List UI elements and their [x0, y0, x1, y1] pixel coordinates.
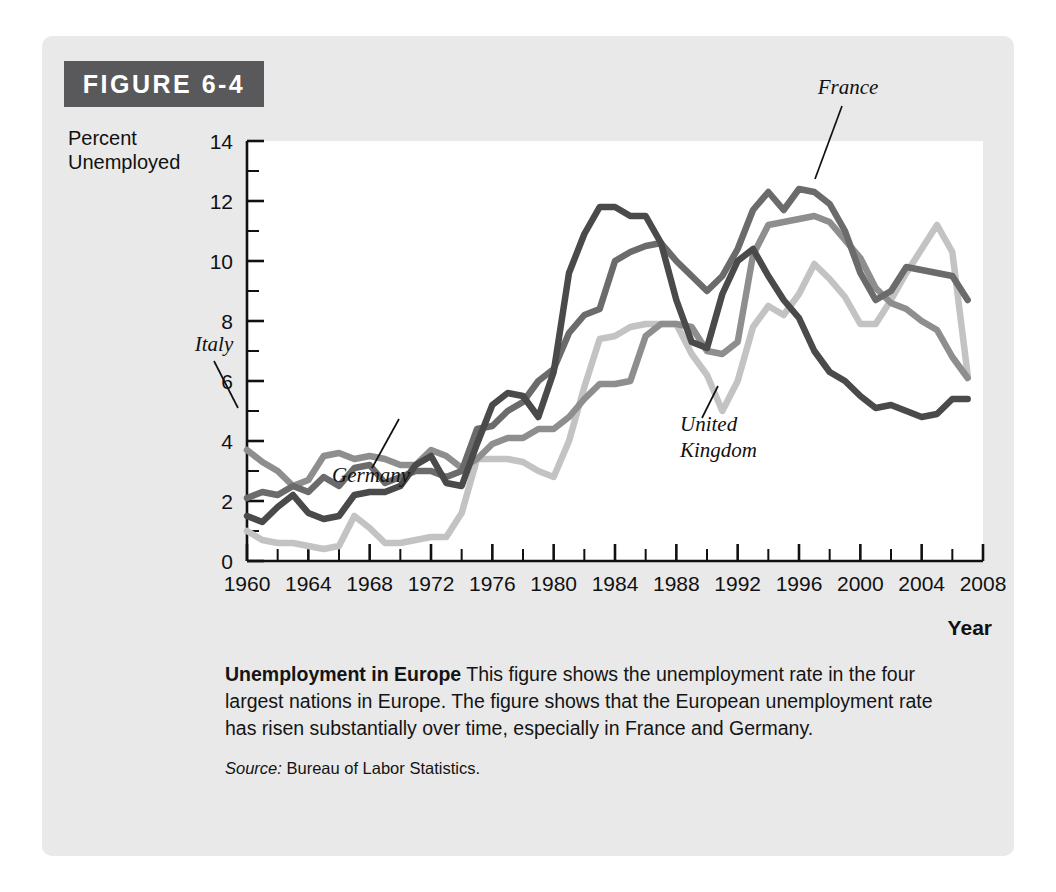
caption-source: Source: Bureau of Labor Statistics.: [225, 759, 945, 778]
x-axis-title: Year: [948, 616, 992, 640]
y-tick-label: 2: [221, 490, 233, 513]
caption-text: Unemployment in Europe This figure shows…: [225, 661, 945, 742]
x-tick-label: 1992: [714, 572, 761, 595]
unemployment-line-chart: 02468101214 1960196419681972197619801984…: [42, 36, 1014, 656]
y-tick-label: 6: [221, 370, 233, 393]
y-tick-label: 10: [210, 250, 233, 273]
series-label-france: France: [817, 75, 879, 99]
x-tick-label: 2000: [837, 572, 884, 595]
x-tick-label: 1968: [346, 572, 393, 595]
x-tick-label: 1988: [653, 572, 700, 595]
y-tick-label: 8: [221, 310, 233, 333]
caption-title: Unemployment in Europe: [225, 663, 461, 685]
x-tick-label: 1984: [592, 572, 639, 595]
x-tick-labels: 1960196419681972197619801984198819921996…: [224, 572, 1007, 595]
x-tick-label: 1980: [530, 572, 577, 595]
series-label-italy: Italy: [194, 332, 234, 356]
leader-line: [214, 361, 238, 408]
y-tick-label: 12: [210, 190, 233, 213]
y-tick-label: 4: [221, 430, 233, 453]
x-tick-label: 1996: [776, 572, 823, 595]
figure-caption: Unemployment in Europe This figure shows…: [225, 661, 945, 778]
caption-source-text: Bureau of Labor Statistics.: [282, 759, 480, 777]
y-tick-label: 14: [210, 130, 234, 153]
y-tick-label: 0: [221, 550, 233, 573]
figure-panel: FIGURE 6-4 Percent Unemployed 0246810121…: [42, 36, 1014, 856]
x-tick-label: 1972: [408, 572, 455, 595]
x-tick-label: 1976: [469, 572, 516, 595]
x-tick-label: 1960: [224, 572, 271, 595]
x-tick-label: 2008: [960, 572, 1007, 595]
caption-source-label: Source:: [225, 759, 282, 777]
x-tick-label: 1964: [285, 572, 332, 595]
x-tick-label: 2004: [898, 572, 945, 595]
series-label-germany: Germany: [332, 463, 411, 487]
